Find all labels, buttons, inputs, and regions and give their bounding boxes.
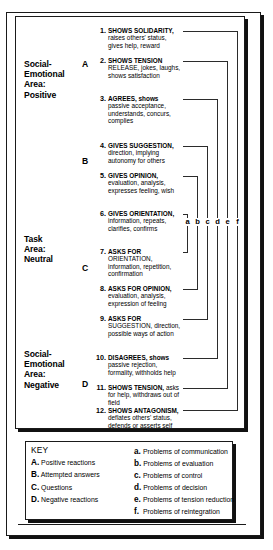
act-text-1: SHOWS SOLIDARITY, raises others' status,… xyxy=(108,27,181,49)
key-text-c: Problems of control xyxy=(143,472,202,479)
key-text-e: Problems of tension reduction xyxy=(143,496,234,503)
act-head-8: ASKS FOR OPINION, xyxy=(108,285,172,292)
key-letter-f: f. xyxy=(134,506,141,518)
key-item-B: B. Attempted answers xyxy=(31,469,141,481)
act-head-10: DISAGREES, shows xyxy=(108,354,169,361)
key-left-column: A. Positive reactions B. Attempted answe… xyxy=(31,457,141,507)
act-head-3: AGREES, shows xyxy=(108,95,158,102)
act-text-12: SHOWS ANTAGONISM, deflates others' statu… xyxy=(108,407,181,429)
key-text-A: Positive reactions xyxy=(41,459,95,466)
act-head-2: SHOWS TENSION xyxy=(108,57,162,64)
act-item-4: 4. GIVES SUGGESTION, direction, implying… xyxy=(95,142,181,164)
key-text-D: Negative reactions xyxy=(41,496,98,503)
pair-letter-a: a xyxy=(183,218,192,226)
act-text-9: ASKS FOR SUGGESTION, direction, possible… xyxy=(108,315,181,337)
key-item-D: D. Negative reactions xyxy=(31,494,141,506)
area-label-positive-line2: Emotional xyxy=(24,69,65,79)
act-body-6: information, repeats, clarifies, confirm… xyxy=(108,217,166,231)
key-item-f: f. Problems of reintegration xyxy=(134,506,234,518)
bracket-b-bottom xyxy=(183,289,198,290)
key-item-e: e. Problems of tension reduction xyxy=(134,494,234,506)
group-letter-a: A xyxy=(80,59,90,69)
act-item-11: 11. SHOWS TENSION, asks for help, withdr… xyxy=(95,384,181,406)
act-number-3: 3. xyxy=(95,95,106,103)
bracket-d-spine xyxy=(217,99,218,358)
bracket-e-top xyxy=(183,61,228,62)
act-head-1: SHOWS SOLIDARITY, xyxy=(108,27,174,34)
act-item-9: 9. ASKS FOR SUGGESTION, direction, possi… xyxy=(95,315,181,337)
act-body-1: raises others' status, gives help, rewar… xyxy=(108,34,166,48)
act-number-8: 8. xyxy=(95,285,106,293)
act-body-8: evaluation, analysis, expression of feel… xyxy=(108,292,167,306)
key-letter-B: B. xyxy=(31,469,39,481)
act-number-4: 4. xyxy=(95,142,106,150)
act-item-10: 10. DISAGREES, shows passive rejection, … xyxy=(95,354,181,376)
act-head-11: SHOWS TENSION, xyxy=(108,384,164,391)
bracket-c-top xyxy=(183,146,208,147)
key-text-C: Questions xyxy=(41,484,72,491)
act-body-5: evaluation, analysis, expresses feeling,… xyxy=(108,179,174,193)
act-number-9: 9. xyxy=(95,315,106,323)
area-label-neutral: Task Area: Neutral xyxy=(24,234,53,265)
key-letter-a: a. xyxy=(134,446,141,458)
act-text-8: ASKS FOR OPINION, evaluation, analysis, … xyxy=(108,285,181,307)
key-letter-b: b. xyxy=(134,458,141,470)
area-label-negative: Social- Emotional Area: Negative xyxy=(24,349,65,390)
group-letter-b: B xyxy=(80,156,90,166)
bracket-f-bottom xyxy=(183,410,238,411)
key-letter-A: A. xyxy=(31,457,39,469)
act-number-2: 2. xyxy=(95,57,106,65)
act-number-7: 7. xyxy=(95,248,106,256)
key-item-b: b. Problems of evaluation xyxy=(134,458,234,470)
key-letter-D: D. xyxy=(31,494,39,506)
area-label-negative-line4: Negative xyxy=(24,380,65,390)
act-body-7: ORIENTATION, information, repetition, co… xyxy=(108,255,171,277)
pair-letter-b: b xyxy=(193,218,202,226)
bracket-f-top xyxy=(183,31,238,32)
group-letter-d: D xyxy=(80,379,90,389)
key-item-d: d. Problems of decision xyxy=(134,482,234,494)
pair-letter-d: d xyxy=(213,218,222,226)
bracket-d-top xyxy=(183,99,218,100)
area-label-neutral-line1: Task xyxy=(24,234,53,244)
act-number-11: 11. xyxy=(95,384,106,392)
act-text-6: GIVES ORIENTATION, information, repeats,… xyxy=(108,210,181,232)
key-text-d: Problems of decision xyxy=(143,484,207,491)
area-label-neutral-line3: Neutral xyxy=(24,254,53,264)
area-label-negative-line3: Area: xyxy=(24,369,65,379)
act-text-10: DISAGREES, shows passive rejection, form… xyxy=(108,354,181,376)
act-body-9: SUGGESTION, direction, possible ways of … xyxy=(108,322,180,336)
act-head-4: GIVES SUGGESTION, xyxy=(108,142,174,149)
key-text-B: Attempted answers xyxy=(41,471,100,478)
act-item-7: 7. ASKS FOR ORIENTATION, information, re… xyxy=(95,248,181,278)
bracket-b-spine xyxy=(197,176,198,289)
bracket-e-bottom xyxy=(183,388,228,389)
bracket-d-bottom xyxy=(183,358,218,359)
area-label-negative-line2: Emotional xyxy=(24,359,65,369)
act-number-5: 5. xyxy=(95,172,106,180)
act-text-5: GIVES OPINION, evaluation, analysis, exp… xyxy=(108,172,181,194)
act-body-4: direction, implying autonomy for others xyxy=(108,149,165,163)
key-right-column: a. Problems of communication b. Problems… xyxy=(134,446,234,517)
bracket-b-top xyxy=(183,176,198,177)
act-number-10: 10. xyxy=(95,354,106,362)
act-number-1: 1. xyxy=(95,27,106,35)
bottom-divider-rule xyxy=(18,524,246,525)
act-text-2: SHOWS TENSION RELEASE, jokes, laughs, sh… xyxy=(108,57,181,79)
key-title: KEY xyxy=(31,445,48,455)
area-label-positive-line3: Area: xyxy=(24,79,65,89)
act-item-12: 12. SHOWS ANTAGONISM, deflates others' s… xyxy=(95,407,181,429)
area-label-positive-line4: Positive xyxy=(24,90,65,100)
act-text-4: GIVES SUGGESTION, direction, implying au… xyxy=(108,142,181,164)
bracket-c-bottom xyxy=(183,319,208,320)
area-label-positive: Social- Emotional Area: Positive xyxy=(24,59,65,100)
act-item-3: 3. AGREES, shows passive acceptance, und… xyxy=(95,95,181,125)
act-text-11: SHOWS TENSION, asks for help, withdraws … xyxy=(108,384,181,406)
act-head-6: GIVES ORIENTATION, xyxy=(108,210,174,217)
pair-letter-e: e xyxy=(223,218,232,226)
key-letter-c: c. xyxy=(134,470,141,482)
act-body-2: RELEASE, jokes, laughs, shows satisfacti… xyxy=(108,64,180,78)
act-item-8: 8. ASKS FOR OPINION, evaluation, analysi… xyxy=(95,285,181,307)
key-letter-d: d. xyxy=(134,482,141,494)
act-body-10: passive rejection, formality, withholds … xyxy=(108,361,176,375)
